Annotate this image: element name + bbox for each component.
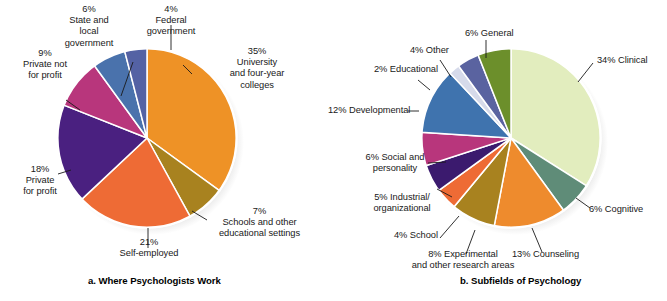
label-private-not-for-profit: 9% Private not for profit	[3, 48, 87, 82]
leader-line	[418, 80, 430, 90]
label-self-employed: 21% Self-employed	[103, 237, 195, 259]
label-cognitive: 6% Cognitive	[589, 204, 643, 215]
label-school: 4% School	[394, 230, 438, 241]
two-pie-chart-figure: 6% State and local government 4% Federal…	[0, 0, 667, 301]
label-educational: 2% Educational	[374, 64, 438, 75]
label-state-and-local-government: 6% State and local government	[40, 4, 138, 49]
label-federal-government: 4% Federal government	[131, 4, 211, 38]
caption-where-psychologists-work: a. Where Psychologists Work	[88, 275, 221, 286]
label-counseling: 13% Counseling	[512, 249, 579, 260]
caption-subfields-of-psychology: b. Subfields of Psychology	[460, 275, 581, 286]
leader-line	[578, 63, 593, 82]
label-other: 4% Other	[410, 45, 449, 56]
label-developmental: 12% Developmental	[328, 105, 410, 116]
leader-line	[440, 216, 459, 238]
label-clinical: 34% Clinical	[597, 55, 648, 66]
label-university-and-four-year-colleges: 35% University and four-year colleges	[204, 46, 310, 91]
leader-line	[440, 60, 451, 77]
label-private-for-profit: 18% Private for profit	[6, 164, 74, 198]
label-schools-and-other-educational-settings: 7% Schools and other educational setting…	[191, 206, 328, 240]
label-social-and-personality: 6% Social and personality	[341, 152, 449, 174]
label-general: 6% General	[465, 28, 514, 39]
label-industrial-organizational: 5% Industrial/ organizational	[351, 192, 453, 214]
